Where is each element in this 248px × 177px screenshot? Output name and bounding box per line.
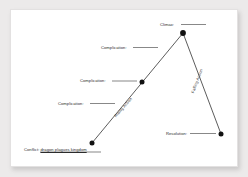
conflict-point-marker [90,141,95,146]
complication-mid-label: Complication: [80,79,106,83]
conflict-label-group: Conflict: dragon plagues kingdom [24,148,87,152]
climax-label: Climax: [160,23,174,27]
falling-action-line [183,33,221,134]
complication-top-label: Complication: [101,46,127,50]
worksheet-canvas: Climax: Complication: Complication: Comp… [0,0,248,177]
resolution-point-marker [219,132,224,137]
conflict-answer-text[interactable]: dragon plagues kingdom [41,147,87,152]
conflict-label: Conflict: [24,147,39,152]
climax-point-marker [180,30,186,36]
resolution-label: Resolution: [166,132,187,136]
complication-low-label: Complication: [58,102,84,106]
complication-point-marker [140,80,145,85]
